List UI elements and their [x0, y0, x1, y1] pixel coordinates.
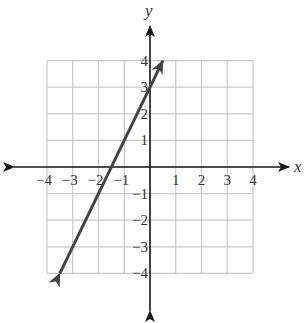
x-tick-label: −1 [113, 172, 129, 188]
y-tick-label: 1 [141, 132, 149, 148]
y-tick-label: 2 [141, 106, 149, 122]
x-tick-label: 4 [249, 172, 257, 188]
y-axis-label: y [143, 1, 153, 20]
x-axis-label: x [293, 157, 302, 176]
y-tick-label: −4 [132, 265, 148, 281]
x-tick-label: 1 [172, 172, 180, 188]
x-tick-label: −4 [36, 172, 52, 188]
x-tick-label: 2 [198, 172, 206, 188]
y-tick-label: 4 [141, 53, 149, 69]
y-tick-label: −3 [132, 239, 148, 255]
x-tick-label: −3 [62, 172, 78, 188]
y-tick-label: −1 [132, 186, 148, 202]
y-tick-label: −2 [132, 212, 148, 228]
x-tick-label: 3 [224, 172, 232, 188]
axes [14, 26, 289, 311]
coordinate-plane: −4−3−2−112344321−1−2−3−4 x y [0, 0, 305, 323]
